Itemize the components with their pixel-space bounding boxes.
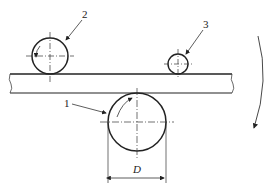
roller-2: 2 bbox=[26, 8, 88, 82]
label-roller-2: 2 bbox=[82, 8, 88, 20]
roller-1: 1 bbox=[64, 88, 174, 160]
rotation-arrow-icon bbox=[117, 98, 132, 117]
rotation-arrow-icon bbox=[36, 46, 40, 57]
leader-line-2 bbox=[66, 20, 82, 40]
label-roller-3: 3 bbox=[203, 18, 209, 30]
workpiece-strip bbox=[9, 74, 234, 93]
roller-3: 3 bbox=[164, 18, 209, 79]
leader-line-3 bbox=[186, 30, 203, 54]
roller-diagram: 2 3 1 D bbox=[0, 0, 274, 190]
dimension-label: D bbox=[132, 163, 141, 175]
label-roller-1: 1 bbox=[64, 97, 70, 109]
feed-direction-arrow-icon bbox=[254, 36, 263, 128]
leader-line-1 bbox=[72, 104, 106, 113]
